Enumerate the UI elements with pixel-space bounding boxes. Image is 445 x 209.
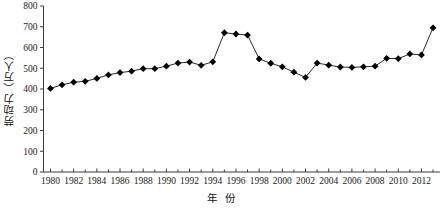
data-point-marker [82, 78, 89, 85]
data-point-marker [59, 81, 66, 88]
y-tick-label: 700 [23, 22, 38, 32]
data-point-marker [267, 60, 274, 67]
y-tick-label: 100 [23, 147, 38, 157]
x-tick-label: 2008 [366, 176, 385, 186]
x-tick-label: 2002 [296, 176, 315, 186]
y-tick-label: 300 [23, 105, 38, 115]
y-tick-label: 200 [23, 126, 38, 136]
x-tick-label: 1980 [41, 176, 60, 186]
x-tick-label: 1988 [134, 176, 153, 186]
x-tick-label: 2004 [319, 176, 338, 186]
x-tick-label: 2006 [342, 176, 361, 186]
data-point-marker [128, 68, 135, 75]
y-tick-label: 500 [23, 64, 38, 74]
y-axis-ticks: 0100200300400500600700800 [23, 1, 43, 177]
y-tick-label: 800 [23, 1, 38, 11]
x-tick-label: 1992 [180, 176, 199, 186]
data-point-marker [175, 60, 182, 67]
data-point-marker [430, 24, 437, 31]
x-tick-label: 1994 [203, 176, 222, 186]
x-tick-label: 2000 [273, 176, 292, 186]
x-tick-label: 1990 [157, 176, 176, 186]
data-point-marker [140, 65, 147, 72]
data-point-marker [233, 31, 240, 38]
data-point-marker [117, 69, 124, 76]
data-point-marker [244, 32, 251, 39]
data-point-marker [93, 75, 100, 82]
labor-force-line-chart: 劳动力（万人） 0100200300400500600700800 198019… [0, 0, 445, 209]
data-point-marker [337, 64, 344, 71]
data-point-marker [383, 55, 390, 62]
data-point-marker [186, 59, 193, 66]
data-point-marker [47, 85, 54, 92]
data-point-marker [151, 65, 158, 72]
data-point-marker [221, 29, 228, 36]
x-tick-label: 1996 [226, 176, 245, 186]
x-tick-label: 1986 [111, 176, 130, 186]
plot-area: 0100200300400500600700800 19801982198419… [0, 0, 445, 209]
data-point-marker [256, 56, 263, 63]
data-point-marker [209, 58, 216, 65]
data-point-marker [348, 64, 355, 71]
data-point-marker [418, 52, 425, 59]
data-point-marker [360, 63, 367, 70]
data-point-marker [198, 62, 205, 69]
x-tick-label: 2010 [389, 176, 408, 186]
x-tick-label: 1982 [64, 176, 83, 186]
y-tick-label: 600 [23, 43, 38, 53]
data-point-marker [163, 63, 170, 70]
y-tick-label: 400 [23, 84, 38, 94]
x-tick-label: 1998 [250, 176, 269, 186]
y-tick-label: 0 [33, 167, 38, 177]
data-point-marker [279, 63, 286, 70]
data-point-marker [105, 71, 112, 78]
data-point-marker [291, 69, 298, 76]
data-point-marker [70, 79, 77, 86]
x-axis-ticks: 1980198219841986198819901992199419961998… [41, 169, 433, 186]
data-point-marker [372, 63, 379, 70]
x-tick-label: 1984 [87, 176, 106, 186]
data-line [50, 28, 433, 89]
x-tick-label: 2012 [412, 176, 431, 186]
data-point-marker [325, 62, 332, 69]
x-axis-title: 年 份 [0, 190, 445, 205]
data-point-marker [406, 51, 413, 58]
data-point-marker [395, 55, 402, 62]
